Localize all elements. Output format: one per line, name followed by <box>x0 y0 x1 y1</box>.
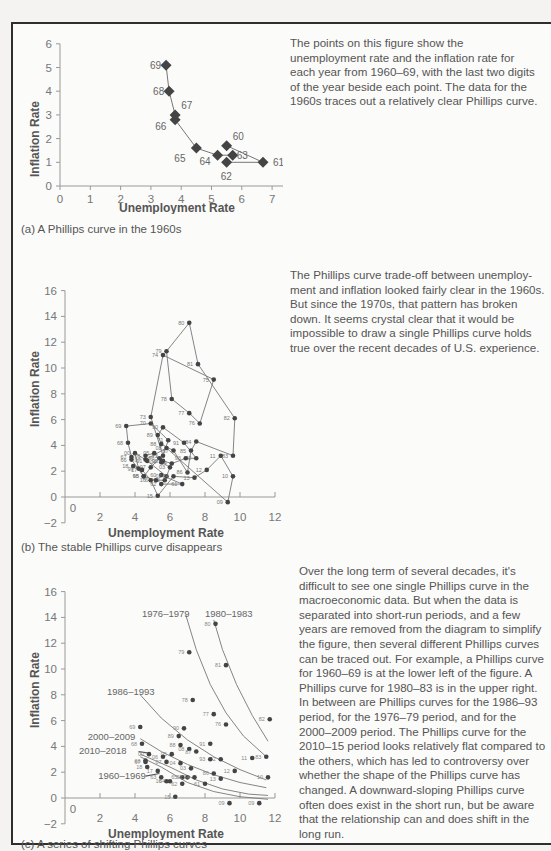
svg-text:1980–1983: 1980–1983 <box>205 608 253 619</box>
svg-text:69: 69 <box>115 423 121 429</box>
svg-text:12: 12 <box>269 812 282 824</box>
svg-text:68: 68 <box>153 86 165 97</box>
svg-text:Unemployment Rate: Unemployment Rate <box>119 201 235 214</box>
description-a: The points on this figure show the unemp… <box>290 36 540 109</box>
svg-text:12: 12 <box>196 467 202 473</box>
svg-text:Unemployment Rate: Unemployment Rate <box>108 526 224 539</box>
figure-frame: Inflation Rate 0123456012345678606162636… <box>11 22 551 845</box>
svg-text:16: 16 <box>44 285 57 297</box>
svg-text:02: 02 <box>177 774 183 780</box>
svg-text:Inflation Rate: Inflation Rate <box>28 351 42 427</box>
svg-text:2: 2 <box>97 511 103 523</box>
svg-text:64: 64 <box>200 156 212 167</box>
svg-text:1986–1993: 1986–1993 <box>107 686 155 697</box>
svg-text:12: 12 <box>269 511 282 523</box>
svg-text:16: 16 <box>140 477 146 483</box>
svg-text:76: 76 <box>189 420 195 426</box>
svg-text:2010–2018: 2010–2018 <box>79 745 127 756</box>
svg-text:91: 91 <box>173 440 179 446</box>
svg-text:Inflation Rate: Inflation Rate <box>28 652 42 728</box>
svg-text:82: 82 <box>259 716 265 722</box>
svg-text:07: 07 <box>135 457 141 463</box>
svg-text:89: 89 <box>147 432 153 438</box>
svg-text:09: 09 <box>217 499 223 505</box>
svg-text:93: 93 <box>175 455 181 461</box>
caption-b: (b) The stable Phillips curve disappears <box>21 541 222 553</box>
svg-text:86: 86 <box>203 770 209 776</box>
svg-text:1976–1979: 1976–1979 <box>142 608 190 619</box>
svg-text:3: 3 <box>46 109 52 121</box>
svg-text:00: 00 <box>124 450 130 456</box>
svg-text:08: 08 <box>178 746 184 752</box>
svg-text:90: 90 <box>173 725 179 731</box>
svg-text:6: 6 <box>51 715 57 727</box>
svg-text:02: 02 <box>156 473 162 479</box>
svg-text:2: 2 <box>97 812 103 824</box>
svg-text:−2: −2 <box>44 517 57 529</box>
caption-a: (a) A Phillips curve in the 1960s <box>21 223 181 235</box>
svg-text:0: 0 <box>51 491 57 503</box>
svg-text:73: 73 <box>140 414 146 420</box>
svg-text:12: 12 <box>44 637 57 649</box>
svg-text:6: 6 <box>167 511 173 523</box>
svg-text:04: 04 <box>150 459 156 465</box>
svg-text:00: 00 <box>138 751 144 757</box>
svg-text:6: 6 <box>167 812 173 824</box>
svg-text:7: 7 <box>269 193 275 205</box>
svg-text:79: 79 <box>156 348 162 354</box>
svg-text:09: 09 <box>248 800 254 806</box>
svg-text:16: 16 <box>44 586 57 598</box>
svg-text:14: 14 <box>44 611 57 623</box>
svg-text:63: 63 <box>237 150 249 161</box>
svg-text:89: 89 <box>168 733 174 739</box>
svg-text:78: 78 <box>182 697 188 703</box>
svg-text:03: 03 <box>180 765 186 771</box>
svg-text:16: 16 <box>156 778 162 784</box>
svg-text:77: 77 <box>178 410 184 416</box>
svg-text:70: 70 <box>140 420 146 426</box>
chart-a: Inflation Rate 0123456012345678606162636… <box>13 24 283 214</box>
svg-text:0: 0 <box>46 180 52 192</box>
svg-text:8: 8 <box>202 511 208 523</box>
svg-text:8: 8 <box>51 689 57 701</box>
svg-text:5: 5 <box>46 62 52 74</box>
svg-text:88: 88 <box>170 742 176 748</box>
svg-text:62: 62 <box>221 171 233 182</box>
svg-text:10: 10 <box>44 362 57 374</box>
description-b: The Phillips curve trade-off between une… <box>290 268 546 356</box>
svg-text:12: 12 <box>44 336 57 348</box>
svg-text:80: 80 <box>178 320 184 326</box>
svg-text:0: 0 <box>70 803 76 815</box>
svg-text:14: 14 <box>163 473 169 479</box>
svg-text:61: 61 <box>171 481 177 487</box>
svg-text:13: 13 <box>184 475 190 481</box>
svg-text:0: 0 <box>70 502 76 514</box>
svg-text:6: 6 <box>239 193 245 205</box>
svg-text:81: 81 <box>215 662 221 668</box>
svg-text:0: 0 <box>57 193 63 205</box>
svg-text:4: 4 <box>51 740 58 752</box>
svg-text:79: 79 <box>178 649 184 655</box>
svg-text:09: 09 <box>219 800 225 806</box>
svg-text:61: 61 <box>273 157 283 168</box>
svg-text:4: 4 <box>46 85 53 97</box>
svg-text:2: 2 <box>51 465 57 477</box>
svg-text:10: 10 <box>234 511 247 523</box>
svg-text:62: 62 <box>171 781 177 787</box>
svg-text:1: 1 <box>87 193 93 205</box>
svg-text:−2: −2 <box>44 818 57 830</box>
svg-text:6: 6 <box>46 38 52 50</box>
chart-c: Inflation Rate −202468101214160246810121… <box>13 560 283 840</box>
svg-text:03: 03 <box>159 464 165 470</box>
svg-text:14: 14 <box>44 310 57 322</box>
svg-text:81: 81 <box>187 361 193 367</box>
svg-text:18: 18 <box>136 764 142 770</box>
svg-text:91: 91 <box>199 741 205 747</box>
svg-text:07: 07 <box>156 759 162 765</box>
svg-text:90: 90 <box>152 424 158 430</box>
svg-text:13: 13 <box>210 776 216 782</box>
svg-text:8: 8 <box>202 812 208 824</box>
svg-text:10: 10 <box>234 812 247 824</box>
svg-text:4: 4 <box>51 439 58 451</box>
svg-text:11: 11 <box>210 453 216 459</box>
